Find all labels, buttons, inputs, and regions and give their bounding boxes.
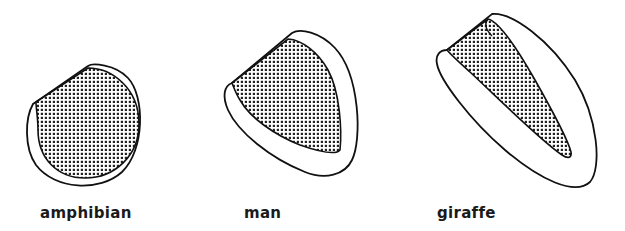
giraffe-heart: [437, 14, 597, 187]
amphibian-heart: [27, 65, 140, 186]
amphibian-cavity: [36, 68, 139, 178]
man-heart: [225, 31, 358, 176]
ventricle-comparison-diagram: [0, 0, 625, 231]
label-giraffe: giraffe: [437, 204, 496, 222]
label-man: man: [244, 204, 281, 222]
label-amphibian: amphibian: [40, 204, 132, 222]
